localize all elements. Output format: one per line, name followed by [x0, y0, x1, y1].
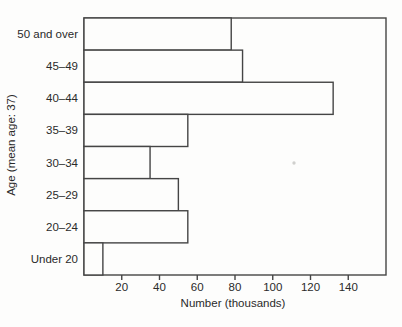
- y-axis-title: Age (mean age: 37): [5, 94, 17, 196]
- category-label-35-39: 35–39: [46, 124, 78, 136]
- bars-group: [84, 18, 333, 275]
- category-label-20-24: 20–24: [46, 221, 79, 233]
- bar-45-49: [84, 50, 243, 82]
- x-tick-labels-group: 20406080100120140: [115, 281, 357, 293]
- category-label-45-49: 45–49: [46, 60, 78, 72]
- category-label-30-34: 30–34: [46, 157, 79, 169]
- bar-25-29: [84, 179, 178, 211]
- bar-40-44: [84, 82, 333, 114]
- x-tick-label-20: 20: [115, 281, 128, 293]
- category-label-25-29: 25–29: [46, 189, 78, 201]
- x-tick-label-120: 120: [301, 281, 320, 293]
- x-tick-label-100: 100: [263, 281, 282, 293]
- scan-artifact-dot: [292, 161, 295, 164]
- x-tick-label-140: 140: [339, 281, 358, 293]
- category-label-40-44: 40–44: [46, 92, 79, 104]
- category-label-under-20: Under 20: [31, 253, 78, 265]
- bar-20-24: [84, 211, 188, 243]
- x-tick-label-60: 60: [191, 281, 204, 293]
- age-distribution-figure: 20406080100120140 50 and over45–4940–443…: [0, 0, 402, 327]
- x-ticks-group: [122, 275, 349, 280]
- x-axis-title: Number (thousands): [181, 297, 286, 309]
- x-tick-label-80: 80: [229, 281, 242, 293]
- x-tick-label-40: 40: [153, 281, 166, 293]
- bar-50-and-over: [84, 18, 231, 50]
- age-distribution-bar-chart: 20406080100120140 50 and over45–4940–443…: [0, 0, 402, 327]
- bar-35-39: [84, 114, 188, 146]
- category-label-50-and-over: 50 and over: [17, 28, 78, 40]
- bar-30-34: [84, 147, 150, 179]
- category-labels-group: 50 and over45–4940–4435–3930–3425–2920–2…: [17, 28, 78, 265]
- bar-under-20: [84, 243, 103, 275]
